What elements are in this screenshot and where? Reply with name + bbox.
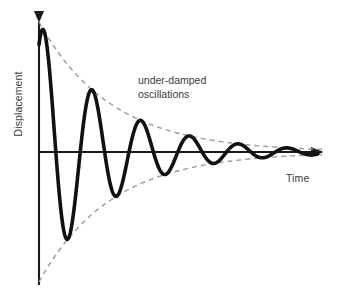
- annotation-line-2: oscillations: [138, 88, 206, 102]
- x-axis-label: Time: [286, 172, 309, 184]
- lower-envelope-curve: [39, 154, 325, 282]
- plot-canvas: [0, 0, 340, 304]
- annotation-line-1: under-damped: [138, 74, 206, 88]
- damped-oscillation-curve: [39, 29, 318, 239]
- damped-oscillation-figure: Displacement Time under-damped oscillati…: [0, 0, 340, 304]
- y-axis-label: Displacement: [12, 72, 24, 137]
- annotation-under-damped: under-damped oscillations: [138, 74, 206, 101]
